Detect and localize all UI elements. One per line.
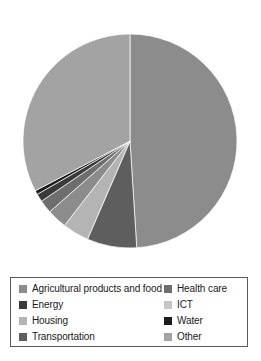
legend-swatch-health-care: [164, 285, 172, 293]
legend-label-energy: Energy: [32, 297, 63, 313]
pie-chart-figure: Agricultural products and food Health ca…: [0, 0, 261, 361]
legend-label-housing: Housing: [32, 313, 68, 329]
legend-swatch-water: [164, 317, 172, 325]
legend-label-water: Water: [177, 313, 203, 329]
pie-plot-area: [0, 0, 261, 272]
legend-item-energy[interactable]: Energy: [19, 297, 164, 313]
legend-swatch-energy: [19, 301, 27, 309]
legend-item-ict[interactable]: ICT: [164, 297, 257, 313]
legend-swatch-agricultural-products-and-food: [19, 285, 27, 293]
chart-legend: Agricultural products and food Health ca…: [10, 277, 248, 347]
legend-item-health-care[interactable]: Health care: [164, 281, 257, 297]
legend-label-transportation: Transportation: [32, 329, 95, 345]
legend-label-other: Other: [177, 329, 202, 345]
legend-swatch-housing: [19, 317, 27, 325]
legend-item-transportation[interactable]: Transportation: [19, 329, 164, 345]
legend-swatch-other: [164, 333, 172, 341]
pie-svg: [0, 0, 261, 272]
legend-item-agricultural-products-and-food[interactable]: Agricultural products and food: [19, 281, 164, 297]
legend-label-agricultural-products-and-food: Agricultural products and food: [32, 281, 162, 297]
pie-slice-group: [23, 34, 237, 248]
legend-label-ict: ICT: [177, 297, 193, 313]
legend-swatch-ict: [164, 301, 172, 309]
legend-item-other[interactable]: Other: [164, 329, 257, 345]
legend-swatch-transportation: [19, 333, 27, 341]
legend-item-housing[interactable]: Housing: [19, 313, 164, 329]
legend-label-health-care: Health care: [177, 281, 227, 297]
legend-item-water[interactable]: Water: [164, 313, 257, 329]
legend-grid: Agricultural products and food Health ca…: [11, 281, 247, 345]
pie-slice-other[interactable]: [130, 34, 237, 248]
